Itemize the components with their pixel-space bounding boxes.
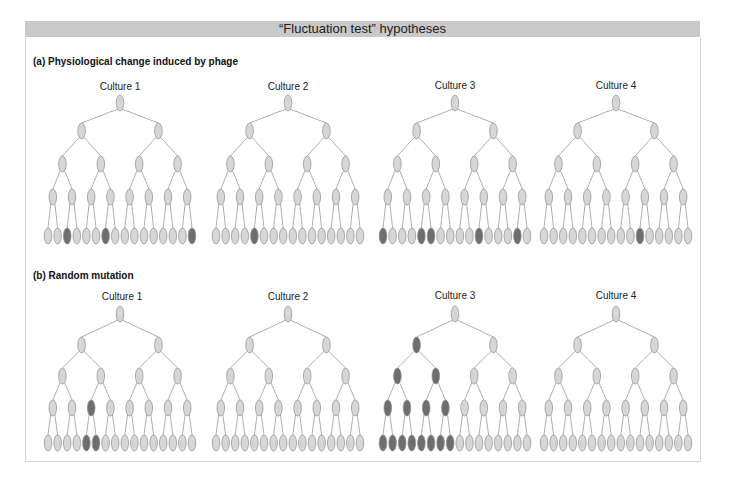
mutant-cell-node bbox=[475, 228, 483, 244]
cell-node bbox=[389, 228, 397, 244]
cell-node bbox=[169, 435, 177, 451]
cell-node bbox=[174, 368, 182, 384]
mutant-cell-node bbox=[251, 228, 259, 244]
cell-node bbox=[651, 123, 659, 139]
mutant-cell-node bbox=[379, 228, 387, 244]
cell-node bbox=[540, 435, 548, 451]
cell-node bbox=[159, 228, 167, 244]
cell-node bbox=[78, 337, 86, 353]
cell-node bbox=[150, 228, 158, 244]
cell-node bbox=[675, 228, 683, 244]
cell-node bbox=[318, 228, 326, 244]
cell-node bbox=[518, 189, 526, 205]
cell-node bbox=[251, 435, 259, 451]
cell-node bbox=[49, 400, 57, 416]
lineage-trees bbox=[0, 0, 733, 485]
cell-node bbox=[394, 156, 402, 172]
cell-node bbox=[140, 435, 148, 451]
cell-node bbox=[97, 156, 105, 172]
cell-node bbox=[451, 306, 459, 322]
cell-node bbox=[73, 435, 81, 451]
mutant-cell-node bbox=[418, 228, 426, 244]
cell-node bbox=[121, 228, 129, 244]
cell-node bbox=[446, 228, 454, 244]
cell-node bbox=[265, 368, 273, 384]
mutant-cell-node bbox=[102, 228, 110, 244]
cell-node bbox=[135, 156, 143, 172]
cell-node bbox=[68, 400, 76, 416]
cell-node bbox=[145, 189, 153, 205]
cell-node bbox=[504, 228, 512, 244]
cell-node bbox=[523, 228, 531, 244]
cell-node bbox=[126, 189, 134, 205]
cell-node bbox=[236, 189, 244, 205]
cell-node bbox=[294, 400, 302, 416]
cell-node bbox=[655, 228, 663, 244]
cell-node bbox=[179, 228, 187, 244]
cell-node bbox=[651, 337, 659, 353]
cell-node bbox=[246, 123, 254, 139]
cell-node bbox=[612, 95, 620, 111]
cell-node bbox=[222, 435, 230, 451]
cell-node bbox=[212, 435, 220, 451]
cell-node bbox=[222, 228, 230, 244]
mutant-cell-node bbox=[427, 228, 435, 244]
cell-node bbox=[603, 189, 611, 205]
mutant-cell-node bbox=[427, 435, 435, 451]
cell-node bbox=[588, 228, 596, 244]
cell-node bbox=[485, 228, 493, 244]
mutant-cell-node bbox=[394, 368, 402, 384]
cell-node bbox=[236, 400, 244, 416]
cell-node bbox=[116, 95, 124, 111]
cell-node bbox=[332, 400, 340, 416]
cell-node bbox=[574, 337, 582, 353]
cell-node bbox=[255, 400, 263, 416]
cell-node bbox=[179, 435, 187, 451]
cell-node bbox=[107, 400, 115, 416]
cell-node bbox=[545, 189, 553, 205]
cell-node bbox=[59, 368, 67, 384]
cell-node bbox=[351, 400, 359, 416]
cell-node bbox=[356, 435, 364, 451]
mutant-cell-node bbox=[379, 435, 387, 451]
cell-node bbox=[260, 228, 268, 244]
cell-node bbox=[485, 435, 493, 451]
cell-node bbox=[627, 228, 635, 244]
mutant-cell-node bbox=[432, 368, 440, 384]
cell-node bbox=[398, 228, 406, 244]
mutant-cell-node bbox=[384, 400, 392, 416]
cell-node bbox=[466, 435, 474, 451]
cell-node bbox=[555, 368, 563, 384]
mutant-cell-node bbox=[422, 400, 430, 416]
mutant-cell-node bbox=[636, 228, 644, 244]
cell-node bbox=[646, 435, 654, 451]
cell-node bbox=[183, 400, 191, 416]
cell-node bbox=[44, 435, 52, 451]
cell-node bbox=[684, 435, 692, 451]
cell-node bbox=[212, 228, 220, 244]
cell-node bbox=[279, 435, 287, 451]
cell-node bbox=[408, 228, 416, 244]
mutant-cell-node bbox=[408, 435, 416, 451]
cell-node bbox=[126, 400, 134, 416]
cell-node bbox=[660, 400, 668, 416]
cell-node bbox=[313, 189, 321, 205]
cell-node bbox=[337, 435, 345, 451]
cell-node bbox=[54, 228, 62, 244]
mutant-cell-node bbox=[188, 228, 196, 244]
cell-node bbox=[451, 95, 459, 111]
mutant-cell-node bbox=[514, 228, 522, 244]
cell-node bbox=[442, 189, 450, 205]
cell-node bbox=[116, 306, 124, 322]
cell-node bbox=[622, 189, 630, 205]
mutant-cell-node bbox=[403, 400, 411, 416]
mutant-cell-node bbox=[83, 435, 91, 451]
cell-node bbox=[665, 228, 673, 244]
cell-node bbox=[323, 123, 331, 139]
cell-node bbox=[265, 156, 273, 172]
cell-node bbox=[140, 228, 148, 244]
cell-node bbox=[63, 435, 71, 451]
cell-node bbox=[289, 435, 297, 451]
cell-node bbox=[461, 189, 469, 205]
cell-node bbox=[164, 400, 172, 416]
